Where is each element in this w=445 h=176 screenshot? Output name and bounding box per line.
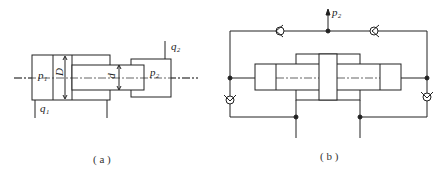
label-q1: q₁ xyxy=(40,102,49,114)
caption-b: ( b ) xyxy=(320,150,338,162)
hydraulic-diagrams xyxy=(0,0,445,176)
label-D: D xyxy=(53,68,65,76)
figure-b-drawing xyxy=(224,9,433,138)
check-valve-top-right xyxy=(370,25,379,37)
label-p1: p₁ xyxy=(38,69,47,81)
check-valve-right xyxy=(421,92,433,101)
label-q2: q₂ xyxy=(171,40,180,52)
check-valve-top-left xyxy=(276,25,284,37)
check-valve-left xyxy=(224,95,236,104)
label-d: d xyxy=(105,73,117,79)
caption-a: ( a ) xyxy=(93,153,111,165)
label-p2-b: p₂ xyxy=(332,6,341,18)
label-p2-a: p₂ xyxy=(150,66,159,78)
